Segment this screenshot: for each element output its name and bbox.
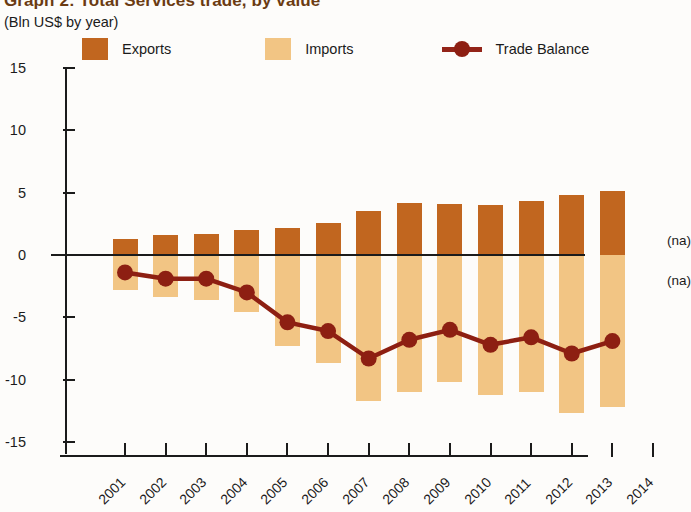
legend-item-trade-balance: Trade Balance: [442, 38, 590, 60]
legend-item-exports: Exports: [82, 38, 171, 60]
x-axis: [60, 455, 588, 457]
legend-swatch-exports: [82, 38, 108, 60]
x-axis-tick: [571, 443, 573, 457]
trade-balance-point: [198, 271, 214, 287]
x-axis-tick-label: 2013: [582, 474, 615, 507]
trade-balance-line: [125, 272, 612, 358]
x-axis-tick-label: 2004: [217, 474, 250, 507]
x-axis-tick-label: 2011: [501, 475, 534, 508]
legend-label-trade-balance: Trade Balance: [496, 41, 590, 57]
x-axis-tick-label: 2006: [298, 474, 331, 507]
legend-swatch-imports: [265, 38, 291, 60]
trade-balance-line-series: [65, 62, 585, 455]
x-axis-tick: [246, 443, 248, 457]
x-axis-tick-label: 2014: [623, 474, 656, 507]
x-axis-tick-label: 2002: [136, 474, 169, 507]
trade-balance-point: [279, 314, 295, 330]
legend-marker-trade-balance: [442, 38, 482, 60]
legend-label-imports: Imports: [305, 41, 353, 57]
na-label-below: (na): [667, 273, 691, 288]
y-axis-tick-label: -5: [0, 309, 26, 325]
y-axis-tick-label: 15: [0, 60, 26, 76]
trade-balance-point: [483, 337, 499, 353]
x-axis-tick: [327, 443, 329, 457]
bar-imports: [600, 255, 625, 407]
trade-balance-point: [361, 351, 377, 367]
x-axis-tick-label: 2010: [461, 474, 494, 507]
trade-balance-point: [604, 333, 620, 349]
bar-exports: [600, 191, 625, 255]
na-label-above: (na): [667, 233, 691, 248]
trade-balance-point: [564, 346, 580, 362]
trade-balance-point: [239, 284, 255, 300]
chart-subtitle: (Bln US$ by year): [4, 14, 118, 30]
trade-balance-point: [117, 264, 133, 280]
x-axis-tick-label: 2007: [339, 474, 372, 507]
trade-balance-point: [523, 329, 539, 345]
x-axis-tick-label: 2008: [379, 474, 412, 507]
x-axis-tick-label: 2012: [542, 474, 575, 507]
plot-area: [65, 62, 585, 455]
chart-legend: Exports Imports Trade Balance: [70, 36, 642, 62]
trade-balance-point: [158, 271, 174, 287]
x-axis-tick-label: 2009: [420, 474, 453, 507]
x-axis-tick: [652, 443, 654, 457]
x-axis-tick-label: 2005: [257, 474, 290, 507]
x-axis-tick: [124, 443, 126, 457]
legend-item-imports: Imports: [265, 38, 353, 60]
page-title: Graph 2: Total Services trade, by value: [4, 0, 320, 11]
x-axis-tick: [286, 443, 288, 457]
x-axis-tick: [449, 443, 451, 457]
x-axis-tick: [408, 443, 410, 457]
x-axis-tick-label: 2003: [176, 474, 209, 507]
y-axis-tick-label: -10: [0, 372, 26, 388]
x-axis-tick: [205, 443, 207, 457]
x-axis-tick: [530, 443, 532, 457]
legend-label-exports: Exports: [122, 41, 171, 57]
trade-balance-point: [401, 332, 417, 348]
y-axis-tick-label: -15: [0, 434, 26, 450]
x-axis-tick: [490, 443, 492, 457]
x-axis-tick: [165, 443, 167, 457]
x-axis-tick: [611, 443, 613, 457]
trade-balance-point: [320, 323, 336, 339]
zero-line: [51, 254, 585, 256]
trade-balance-point: [442, 322, 458, 338]
y-axis-tick-label: 0: [0, 247, 26, 263]
x-axis-tick-label: 2001: [95, 474, 128, 507]
y-axis-tick-label: 10: [0, 122, 26, 138]
y-axis-tick-label: 5: [0, 185, 26, 201]
x-axis-tick: [368, 443, 370, 457]
